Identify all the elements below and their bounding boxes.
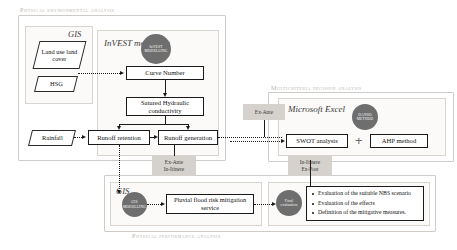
list-item: Definition of the mitigative measures.: [318, 208, 421, 218]
arrowhead-icon: [186, 126, 190, 130]
connector-split-bar: [119, 124, 188, 125]
connector-retention-to-bottom: [119, 145, 120, 193]
connector-rainfall-to-retention: [74, 137, 82, 138]
group-title-gis-top: GIS: [68, 29, 81, 39]
process-box-curve-number: Curve Number: [126, 66, 204, 80]
arrowhead-icon: [117, 190, 121, 194]
connector-to-swot-lower: [230, 141, 282, 142]
data-shape-rainfall: Rainfall: [28, 130, 76, 146]
connector-phase-ante-itinere: [174, 145, 175, 156]
data-shape-land-use: Land use land cover: [33, 41, 87, 69]
arrowhead-icon: [117, 126, 121, 130]
badge-danso-method: DANSO METHOD: [352, 104, 378, 130]
phase-label-ante-itinere: Ex-Ante In-Itinere: [152, 156, 196, 176]
group-title-excel: Microsoft Excel: [288, 104, 338, 114]
connector-cn-to-ksat: [165, 80, 166, 93]
connector-itinere-post-down: [310, 176, 311, 186]
section-caption-mcda: Multicriteria decision analysis: [271, 84, 362, 91]
arrowhead-icon: [272, 202, 276, 206]
evaluation-outcomes-list: Evaluation of the suitable NBS scenario …: [311, 189, 421, 218]
section-caption-performance: Physical performance analysis: [132, 232, 221, 239]
arrowhead-icon: [281, 139, 285, 143]
process-box-saturated-hydraulic: Satured Hydraulic conductivity: [126, 97, 204, 116]
diagram-canvas: Physical environmental analysis Multicri…: [0, 0, 457, 250]
section-caption-environmental: Physical environmental analysis: [20, 6, 115, 13]
phase-label-ex-ante: Ex-Ante: [243, 104, 285, 120]
connector-exante-down: [264, 120, 265, 137]
data-shape-hsg-label: HSG: [50, 80, 63, 87]
connector-pluvial-to-final: [254, 204, 272, 205]
data-shape-rainfall-label: Rainfall: [42, 134, 63, 141]
process-box-runoff-retention: Runoff retention: [88, 130, 150, 145]
process-box-swot-analysis: SWOT analysis: [286, 134, 348, 148]
process-box-runoff-generation: Runoff generation: [158, 130, 218, 145]
connector-mcda-down: [310, 160, 311, 176]
process-box-ahp-method: AHP method: [370, 134, 428, 148]
connector-ksat-down: [165, 116, 166, 124]
evaluation-outcomes-box: Evaluation of the suitable NBS scenario …: [306, 186, 424, 221]
process-box-pluvial-flood-service: Pluvial flood risk mitigation service: [166, 194, 254, 214]
arrowhead-icon: [161, 202, 165, 206]
arrowhead-icon: [163, 93, 167, 97]
plus-operator-icon: +: [355, 134, 363, 147]
connector-hsg-to-curve-number: [78, 73, 120, 74]
badge-invest-modelling: InVEST MODELLING: [141, 34, 171, 64]
badge-gis-modelling: GIS MODELLING: [122, 192, 147, 217]
arrowhead-icon: [120, 71, 124, 75]
list-item: Evaluation of the suitable NBS scenario: [318, 189, 421, 199]
arrowhead-icon: [82, 135, 86, 139]
list-item: Evaluation of the effects: [318, 199, 421, 209]
badge-final-evaluation: Final evaluation: [276, 190, 302, 216]
data-shape-hsg: HSG: [34, 76, 78, 92]
data-shape-land-use-label: Land use land cover: [37, 48, 82, 63]
arrowhead-icon: [154, 135, 158, 139]
connector-generation-to-exante: [218, 137, 282, 138]
connector-gis-to-pluvial: [147, 204, 161, 205]
